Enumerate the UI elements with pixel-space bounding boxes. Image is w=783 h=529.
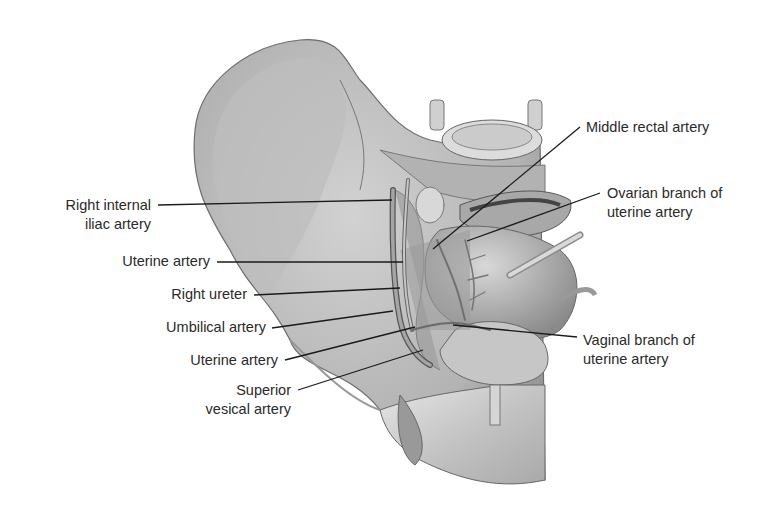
label-line: iliac artery (66, 215, 151, 234)
label-ovarian-branch: Ovarian branch of uterine artery (607, 184, 722, 222)
label-line: Right ureter (171, 285, 247, 304)
label-line: Right internal (66, 196, 151, 215)
label-line: Middle rectal artery (586, 118, 709, 137)
label-line: uterine artery (607, 203, 722, 222)
pelvis-illustration (0, 0, 783, 529)
label-line: Uterine artery (190, 351, 278, 370)
label-line: Ovarian branch of (607, 184, 722, 203)
label-line: Umbilical artery (166, 318, 266, 337)
label-uterine-artery-lower: Uterine artery (190, 351, 278, 370)
label-line: vesical artery (206, 400, 291, 419)
anatomy-figure: Right internal iliac artery Uterine arte… (0, 0, 783, 529)
label-middle-rectal-artery: Middle rectal artery (586, 118, 709, 137)
label-line: Uterine artery (122, 252, 210, 271)
label-superior-vesical-artery: Superior vesical artery (206, 381, 291, 419)
label-right-ureter: Right ureter (171, 285, 247, 304)
label-line: uterine artery (583, 350, 695, 369)
label-umbilical-artery: Umbilical artery (166, 318, 266, 337)
label-line: Superior (206, 381, 291, 400)
label-right-internal-iliac-artery: Right internal iliac artery (66, 196, 151, 234)
label-uterine-artery-upper: Uterine artery (122, 252, 210, 271)
label-vaginal-branch: Vaginal branch of uterine artery (583, 331, 695, 369)
label-line: Vaginal branch of (583, 331, 695, 350)
